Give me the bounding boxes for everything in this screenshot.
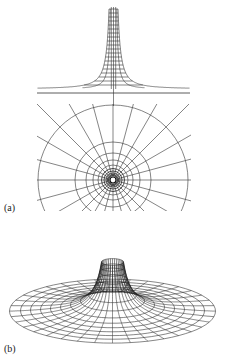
polar-ray (58, 85, 111, 177)
polar-ray (18, 125, 110, 178)
polar-ray (85, 74, 113, 177)
wireframe-3d-view (10, 259, 216, 344)
polar-ray (58, 183, 111, 275)
profile-curve-right (118, 9, 190, 88)
polar-ray (115, 85, 168, 177)
profile-inner-meridian (117, 9, 145, 88)
polar-ray (35, 102, 110, 177)
polar-ray (114, 74, 142, 177)
polar-ray (116, 125, 208, 178)
profile-view (37, 7, 190, 106)
polar-ray (116, 182, 208, 235)
polar-ray (7, 181, 110, 209)
panel-label-a: (a) (4, 202, 15, 213)
polar-ray (7, 152, 110, 180)
polar-ray (116, 102, 191, 177)
surface-meridian (121, 260, 191, 297)
polar-ray (35, 183, 110, 258)
profile-curve-left (38, 9, 110, 88)
surface-meridian (11, 261, 102, 305)
wormhole-figure (0, 0, 229, 363)
polar-ray (18, 182, 110, 235)
surface-meridian (118, 265, 164, 339)
polar-ray (116, 152, 219, 180)
panel-label-b: (b) (4, 343, 16, 354)
surface-meridian (123, 261, 214, 305)
polar-throat (110, 177, 116, 183)
surface-meridian (61, 265, 107, 339)
polar-grid-view (3, 70, 223, 290)
polar-ray (116, 183, 191, 258)
polar-ray (116, 181, 219, 209)
profile-inner-meridian (83, 9, 111, 88)
